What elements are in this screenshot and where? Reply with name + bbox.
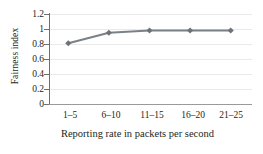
y-tick-label: 0.2 bbox=[16, 82, 44, 96]
data-point-marker bbox=[228, 27, 234, 33]
y-tick-label: 0 bbox=[16, 97, 44, 111]
y-tick-label: 1.2 bbox=[16, 7, 44, 21]
data-point-marker bbox=[65, 40, 71, 46]
x-axis-tick-labels: 1–5 6–10 11–15 16–20 21–25 bbox=[49, 108, 252, 122]
x-tick-label: 6–10 bbox=[89, 108, 133, 122]
series-line-fairness-index bbox=[49, 14, 252, 106]
data-point-marker bbox=[106, 30, 112, 36]
x-tick-label: 1–5 bbox=[48, 108, 92, 122]
y-tick-label: 0.8 bbox=[16, 37, 44, 51]
data-point-marker bbox=[187, 27, 193, 33]
x-axis-title: Reporting rate in packets per second bbox=[30, 126, 245, 141]
x-tick-label: 11–15 bbox=[130, 108, 174, 122]
data-point-marker bbox=[146, 27, 152, 33]
y-axis-tick-labels: 0 0.2 0.4 0.6 0.8 1 1.2 bbox=[16, 7, 44, 111]
y-tick-label: 0.6 bbox=[16, 52, 44, 66]
x-tick-label: 21–25 bbox=[209, 108, 253, 122]
y-tick-label: 1 bbox=[16, 22, 44, 36]
chart-figure: Fairness index 0 0.2 0.4 0.6 0.8 1 1.2 1… bbox=[0, 0, 263, 154]
y-tick-label: 0.4 bbox=[16, 67, 44, 81]
